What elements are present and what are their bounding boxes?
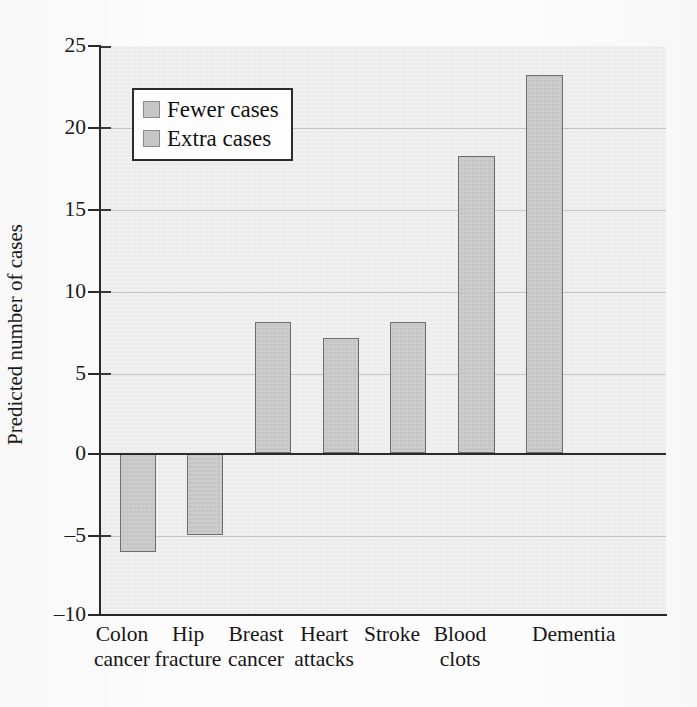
x-label-line2: clots bbox=[406, 647, 514, 672]
x-tick-label-dementia: Dementia bbox=[532, 622, 692, 647]
x-tick-label-blood-clots: Blood clots bbox=[406, 622, 514, 672]
y-tick-labels: 25 20 15 10 5 0 –5 –10 bbox=[0, 0, 697, 707]
x-label-line1: Dementia bbox=[532, 622, 692, 647]
x-label-line2: attacks bbox=[270, 647, 378, 672]
y-axis-title: Predicted number of cases bbox=[3, 115, 28, 555]
x-label-line1: Blood bbox=[406, 622, 514, 647]
y-tick-label: 25 bbox=[0, 33, 86, 58]
bar-chart-figure: Fewer cases Extra cases 25 20 15 10 5 0 … bbox=[0, 0, 697, 707]
